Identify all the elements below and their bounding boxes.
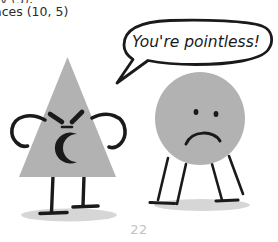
speech-bubble-text: You're pointless! xyxy=(132,33,260,51)
circle-eye-left xyxy=(194,109,199,115)
page-number: 22 xyxy=(0,222,278,237)
circle-leg-1 xyxy=(158,158,168,200)
triangle-leg-left xyxy=(52,176,54,212)
triangle-foot-right xyxy=(73,206,98,207)
circle-character xyxy=(150,72,245,204)
triangle-foot-left xyxy=(40,213,67,214)
circle-foot-left xyxy=(150,203,175,204)
triangle-character xyxy=(12,57,125,214)
circle-body xyxy=(155,72,245,165)
circle-leg-3 xyxy=(212,164,222,200)
circle-leg-4 xyxy=(229,156,243,194)
triangle-legs xyxy=(40,176,98,214)
cartoon-illustration: You're pointless! xyxy=(0,0,278,242)
triangle-leg-right xyxy=(83,176,84,206)
circle-eye-right xyxy=(214,111,219,117)
circle-leg-2 xyxy=(177,164,186,204)
comic-page: y (5), aces (10, 5) xyxy=(0,0,278,242)
circle-foot-right xyxy=(216,200,238,201)
triangle-shadow xyxy=(21,209,117,222)
